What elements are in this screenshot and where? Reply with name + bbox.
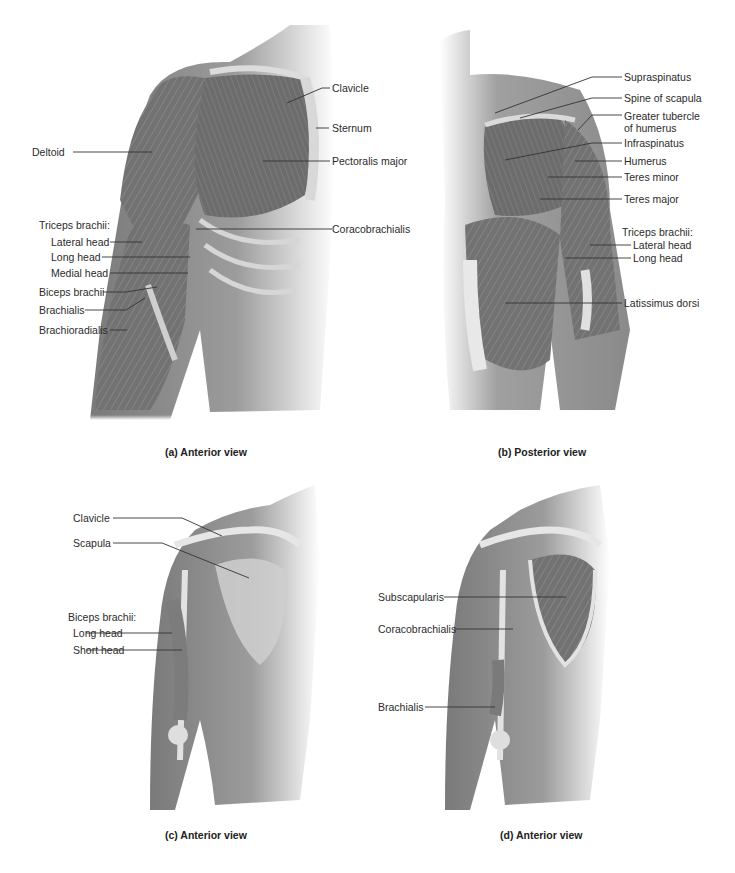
label-a-deltoid: Deltoid	[32, 146, 65, 158]
label-c-clavicle: Clavicle	[73, 512, 110, 524]
label-a-medial-head: Medial head	[51, 267, 108, 279]
label-a-pectoralis-major: Pectoralis major	[332, 155, 407, 167]
label-a-long-head: Long head	[51, 251, 101, 263]
label-a-lateral-head: Lateral head	[51, 236, 109, 248]
label-a-biceps-brachii: Biceps brachii	[39, 286, 104, 298]
label-d-subscapularis: Subscapularis	[378, 591, 444, 603]
label-b-teres-minor: Teres minor	[624, 171, 679, 183]
panel-d-illustration	[440, 485, 640, 815]
panel-b-illustration	[440, 30, 640, 420]
label-a-triceps-brachii: Triceps brachii:	[39, 219, 110, 231]
caption-c: (c) Anterior view	[165, 829, 247, 841]
label-b-supraspinatus: Supraspinatus	[624, 71, 691, 83]
label-b-humerus: Humerus	[624, 155, 667, 167]
label-b-triceps-brachii: Triceps brachii:	[622, 226, 693, 238]
panel-a-illustration	[80, 25, 340, 420]
label-d-brachialis: Brachialis	[378, 701, 424, 713]
label-b-lateral-head: Lateral head	[633, 239, 691, 251]
label-c-biceps-brachii: Biceps brachii:	[68, 611, 136, 623]
label-a-sternum: Sternum	[332, 122, 372, 134]
label-c-long-head: Long head	[73, 627, 123, 639]
label-a-brachialis: Brachialis	[39, 304, 85, 316]
label-b-long-head: Long head	[633, 252, 683, 264]
label-a-clavicle: Clavicle	[332, 82, 369, 94]
label-c-scapula: Scapula	[73, 537, 111, 549]
label-c-short-head: Short head	[73, 644, 124, 656]
caption-b: (b) Posterior view	[498, 446, 586, 458]
label-b-latissimus-dorsi: Latissimus dorsi	[624, 297, 699, 309]
label-d-coracobrachialis: Coracobrachialis	[378, 623, 456, 635]
caption-a: (a) Anterior view	[165, 446, 247, 458]
label-b-greater-tubercle-line1: Greater tubercle	[624, 110, 700, 122]
label-b-greater-tubercle-line2: of humerus	[624, 122, 677, 134]
textbook-figure-page: Clavicle Sternum Deltoid Pectoralis majo…	[0, 0, 735, 873]
label-b-teres-major: Teres major	[624, 193, 679, 205]
label-a-brachioradialis: Brachioradialis	[39, 324, 108, 336]
label-b-spine-of-scapula: Spine of scapula	[624, 92, 702, 104]
label-b-infraspinatus: Infraspinatus	[624, 137, 684, 149]
label-a-coracobrachialis: Coracobrachialis	[332, 223, 410, 235]
caption-d: (d) Anterior view	[500, 829, 582, 841]
